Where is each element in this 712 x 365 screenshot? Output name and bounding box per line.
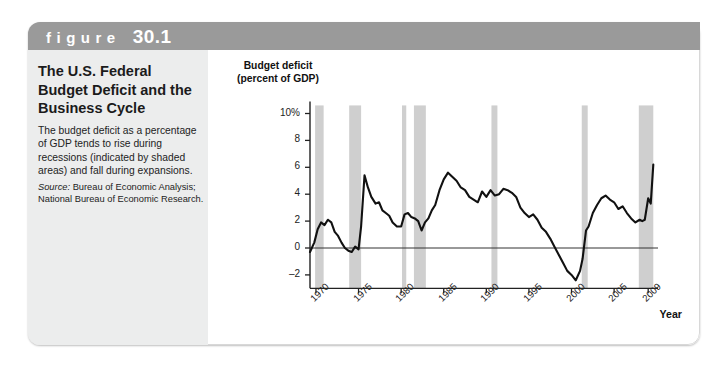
recession-band: [315, 105, 324, 288]
figure-number: 30.1: [133, 26, 172, 47]
figure-title: The U.S. Federal Budget Deficit and the …: [38, 62, 203, 118]
deficit-line: [310, 165, 653, 281]
x-axis-title: Year: [660, 308, 682, 320]
recession-band: [349, 105, 361, 288]
figure-header-text: figure30.1: [46, 25, 172, 49]
figure-caption: The budget deficit as a percentage of GD…: [38, 124, 201, 177]
figure-label-word: figure: [46, 29, 121, 46]
y-axis-tick-label: 6: [266, 160, 300, 171]
y-axis-tick-label: 8: [266, 133, 300, 144]
y-axis-tick-label: 0: [266, 241, 300, 252]
recession-band: [402, 105, 406, 288]
figure-page: figure30.1 The U.S. Federal Budget Defic…: [0, 0, 712, 365]
recession-band: [414, 105, 426, 288]
y-axis-tick-label: 2: [266, 214, 300, 225]
figure-source: Source: Bureau of Economic Analysis; Nat…: [38, 182, 208, 205]
recession-band: [491, 105, 497, 288]
budget-deficit-chart: Budget deficit (percent of GDP) –2024681…: [208, 50, 700, 345]
y-axis-tick-label: 10%: [266, 107, 300, 118]
y-axis-tick-label: 4: [266, 187, 300, 198]
y-axis-tick-label: –2: [266, 268, 300, 279]
figure-source-label: Source:: [38, 182, 70, 192]
